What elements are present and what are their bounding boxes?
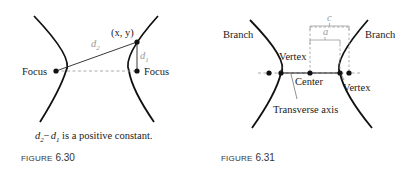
figure-6-31: c a Branch Branch Vertex Vertex Center T… <box>221 12 396 163</box>
left-vertex-point <box>278 70 283 75</box>
right-vertex-label: Vertex <box>343 82 371 93</box>
left-focus-point <box>266 70 271 75</box>
c-label: c <box>327 12 332 23</box>
a-bracket-top <box>310 40 340 44</box>
left-focus-point <box>53 68 58 73</box>
left-branch-label: Branch <box>223 29 254 40</box>
figure-6-30: Focus Focus (x, y) d2 d1 d2−d1 is a posi… <box>21 16 169 163</box>
center-label: Center <box>295 76 323 87</box>
c-bracket <box>310 27 349 72</box>
constant-caption: d2−d1 is a positive constant. <box>35 130 152 144</box>
left-vertex-label: Vertex <box>279 51 307 62</box>
figure-6-30-caption: FIGURE6.30 <box>21 152 75 163</box>
right-focus-point <box>134 68 139 73</box>
right-focus-point <box>346 70 351 75</box>
point-xy <box>134 39 139 44</box>
d2-label: d2 <box>91 38 100 52</box>
figure-6-31-caption: FIGURE6.31 <box>221 152 275 163</box>
a-label: a <box>323 26 328 37</box>
d1-label: d1 <box>140 50 149 64</box>
right-branch-label: Branch <box>365 29 396 40</box>
right-vertex-point <box>337 70 342 75</box>
center-point <box>307 70 312 75</box>
point-xy-label: (x, y) <box>111 27 134 39</box>
hyperbola-figures: Focus Focus (x, y) d2 d1 d2−d1 is a posi… <box>0 0 417 170</box>
left-focus-label: Focus <box>22 66 47 77</box>
transverse-axis-label: Transverse axis <box>273 104 338 115</box>
right-focus-label: Focus <box>144 66 169 77</box>
